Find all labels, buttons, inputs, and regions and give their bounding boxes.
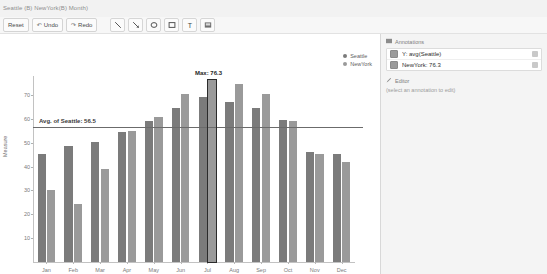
- x-axis-tick-mark: [261, 262, 262, 264]
- bar-seattle-jun[interactable]: [172, 108, 180, 262]
- bar-newyork-oct[interactable]: [289, 121, 297, 262]
- annotations-header-label: Annotations: [395, 39, 424, 45]
- editor-header-label: Editor: [395, 78, 409, 84]
- text-tool-button[interactable]: T: [182, 18, 197, 32]
- plot-area[interactable]: Measure Seattle NewYork 10203040506070Ja…: [0, 34, 380, 274]
- image-tool-button[interactable]: [200, 18, 215, 32]
- bar-seattle-mar[interactable]: [91, 142, 99, 262]
- annotations-list: Y: avg(Seattle) NewYork: 76.3: [386, 48, 542, 71]
- bar-newyork-aug[interactable]: [235, 84, 243, 262]
- bar-newyork-feb[interactable]: [74, 204, 82, 262]
- x-axis-tick-label: Jan: [42, 267, 51, 273]
- average-reference-line[interactable]: [33, 127, 363, 128]
- legend-label-seattle: Seattle: [350, 53, 367, 59]
- x-axis-tick-label: May: [149, 267, 159, 273]
- x-axis-tick-mark: [154, 262, 155, 264]
- annotation-row[interactable]: Y: avg(Seattle): [387, 49, 541, 59]
- bar-newyork-may[interactable]: [154, 117, 162, 262]
- y-axis-tick-mark: [31, 214, 33, 215]
- line-tool-button[interactable]: [110, 18, 125, 32]
- annotation-label: NewYork: 76.3: [402, 62, 528, 68]
- bar-seattle-may[interactable]: [145, 121, 153, 262]
- max-annotation-box[interactable]: [207, 79, 217, 263]
- chart-legend: Seattle NewYork: [343, 52, 372, 68]
- y-axis-tick-label: 10: [14, 235, 30, 241]
- x-axis-tick-label: Sep: [256, 267, 266, 273]
- bar-seattle-aug[interactable]: [225, 102, 233, 262]
- x-axis-tick-mark: [100, 262, 101, 264]
- bar-seattle-nov[interactable]: [306, 152, 314, 262]
- x-axis-tick-label: Jun: [176, 267, 185, 273]
- y-axis-tick-mark: [31, 119, 33, 120]
- bar-newyork-jan[interactable]: [47, 190, 55, 262]
- undo-button[interactable]: ↶ Undo: [32, 18, 63, 32]
- annotation-label: Y: avg(Seattle): [402, 51, 528, 57]
- reset-label: Reset: [8, 22, 24, 28]
- x-axis-tick-label: Aug: [229, 267, 239, 273]
- line-icon: [114, 21, 122, 29]
- bar-newyork-apr[interactable]: [128, 131, 136, 262]
- window-title: Seattle (B) NewYork(B) Month): [0, 0, 547, 17]
- annotations-panel: Annotations Y: avg(Seattle) NewYork: 76.…: [380, 34, 547, 274]
- bar-newyork-dec[interactable]: [342, 162, 350, 262]
- bar-newyork-mar[interactable]: [101, 169, 109, 262]
- y-axis-title: Measure: [2, 136, 8, 157]
- redo-button[interactable]: ↷ Redo: [66, 18, 97, 32]
- pencil-icon: [386, 77, 392, 84]
- redo-label: Redo: [78, 22, 92, 28]
- annotation-delete-button[interactable]: [532, 62, 538, 68]
- bar-seattle-feb[interactable]: [64, 146, 72, 262]
- y-axis-tick-label: 20: [14, 211, 30, 217]
- y-axis-tick-label: 70: [14, 92, 30, 98]
- bar-seattle-sep[interactable]: [252, 108, 260, 262]
- y-axis-tick-label: 30: [14, 187, 30, 193]
- x-axis-tick-mark: [127, 262, 128, 264]
- bar-seattle-jan[interactable]: [38, 154, 46, 263]
- bar-newyork-sep[interactable]: [262, 94, 270, 262]
- ellipse-tool-button[interactable]: [146, 18, 161, 32]
- legend-label-newyork: NewYork: [350, 61, 372, 67]
- annotation-checkbox[interactable]: [390, 61, 398, 69]
- chart-canvas[interactable]: Measure Seattle NewYork 10203040506070Ja…: [0, 34, 380, 274]
- bar-newyork-nov[interactable]: [315, 154, 323, 263]
- bar-seattle-dec[interactable]: [333, 154, 341, 263]
- x-axis-line: [33, 262, 355, 263]
- image-icon: [204, 21, 212, 29]
- annotations-icon: [386, 38, 392, 45]
- toolbar: Reset ↶ Undo ↷ Redo: [0, 17, 547, 34]
- redo-icon: ↷: [71, 22, 76, 28]
- rectangle-tool-button[interactable]: [164, 18, 179, 32]
- legend-swatch-newyork: [343, 62, 347, 66]
- x-axis-tick-label: Apr: [123, 267, 132, 273]
- x-axis-tick-mark: [342, 262, 343, 264]
- annotation-row[interactable]: NewYork: 76.3: [387, 59, 541, 70]
- x-axis-tick-label: Dec: [337, 267, 347, 273]
- editor-hint: (select an annotation to edit): [386, 87, 542, 93]
- max-annotation-label[interactable]: Max: 76.3: [195, 70, 222, 76]
- x-axis-tick-label: Nov: [310, 267, 320, 273]
- editor-header: Editor: [386, 77, 542, 84]
- reset-button[interactable]: Reset: [3, 18, 29, 32]
- bar-seattle-jul[interactable]: [199, 97, 207, 262]
- annotation-checkbox[interactable]: [390, 50, 398, 58]
- arrow-icon: [132, 21, 140, 29]
- bar-newyork-jun[interactable]: [181, 94, 189, 262]
- average-reference-label[interactable]: Avg. of Seattle: 56.5: [39, 118, 96, 124]
- legend-item-newyork[interactable]: NewYork: [343, 60, 372, 68]
- y-axis-line: [33, 76, 34, 262]
- annotation-delete-button[interactable]: [532, 51, 538, 57]
- y-axis-tick-mark: [31, 238, 33, 239]
- annotations-header: Annotations: [386, 38, 542, 45]
- y-axis-tick-label: 50: [14, 140, 30, 146]
- arrow-tool-button[interactable]: [128, 18, 143, 32]
- y-axis-tick-mark: [31, 143, 33, 144]
- x-axis-tick-label: Feb: [69, 267, 78, 273]
- y-axis-tick-mark: [31, 95, 33, 96]
- x-axis-tick-mark: [73, 262, 74, 264]
- y-axis-tick-mark: [31, 167, 33, 168]
- undo-label: Undo: [44, 22, 58, 28]
- legend-item-seattle[interactable]: Seattle: [343, 52, 372, 60]
- bar-seattle-apr[interactable]: [118, 132, 126, 262]
- bar-seattle-oct[interactable]: [279, 120, 287, 262]
- x-axis-tick-mark: [288, 262, 289, 264]
